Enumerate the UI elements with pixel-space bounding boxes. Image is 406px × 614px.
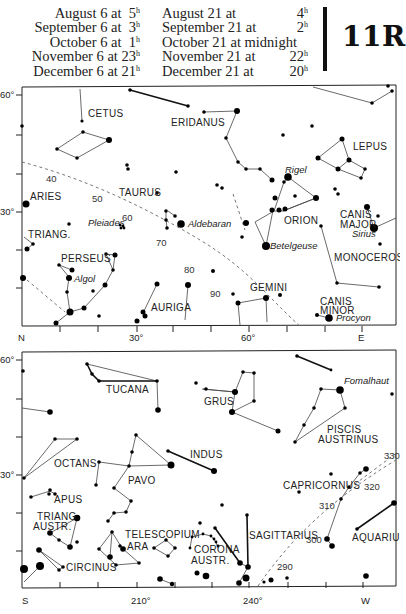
galactic-line: [27, 280, 65, 312]
north-label: N: [18, 332, 25, 343]
pleiades-cluster: Pleiades: [88, 217, 125, 228]
svg-text:ARA: ARA: [127, 541, 148, 552]
star-betelgeuse: Betelgeuse: [270, 240, 318, 251]
svg-text:SAGITTARIUS: SAGITTARIUS: [249, 530, 318, 541]
star-fomalhaut: Fomalhaut: [344, 375, 389, 386]
svg-text:ORION: ORION: [284, 215, 318, 226]
constellation-taurus: TAURUS Pleiades Aldebaran: [88, 187, 231, 230]
constellation-apus: APUS: [29, 488, 82, 505]
svg-text:APUS: APUS: [54, 494, 82, 505]
svg-text:40: 40: [46, 173, 57, 184]
constellation-triangulum-australe: TRIANG AUSTR.: [33, 511, 80, 550]
dec-60-label: 60°: [0, 89, 15, 100]
svg-text:320: 320: [364, 481, 380, 492]
constellation-perseus: PERSEUS Algol: [20, 252, 118, 325]
north-star-map: 60° 30° N 30° 60° E 40 50 60 70 80 90: [0, 84, 400, 343]
constellation-canis-major: CANIS MAJOR Sirius: [333, 187, 396, 246]
east-label: E: [358, 332, 364, 343]
ra-60-label: 60°: [241, 332, 256, 343]
dec-30-label: 30°: [0, 206, 15, 217]
constellation-auriga: AURIGA: [135, 282, 192, 324]
ra-30-label: 30°: [129, 332, 144, 343]
ra-210-label: 210°: [131, 595, 151, 606]
constellation-gemini: GEMINI: [211, 269, 287, 325]
svg-text:AQUARIUS: AQUARIUS: [352, 532, 400, 543]
svg-text:CAPRICORNUS: CAPRICORNUS: [283, 480, 360, 491]
constellation-grus: GRUS: [202, 370, 281, 433]
south-star-map: 60° 30° S 210° 240° W 290 300 310 320 33…: [0, 350, 400, 606]
west-label: W: [361, 595, 370, 606]
constellation-indus: INDUS: [166, 449, 222, 474]
constellation-aquarius: AQUARIUS: [352, 500, 400, 579]
dec-60-label: 60°: [0, 354, 15, 365]
svg-text:70: 70: [156, 237, 167, 248]
svg-text:CETUS: CETUS: [88, 108, 123, 119]
svg-text:310: 310: [319, 500, 335, 511]
svg-text:ERIDANUS: ERIDANUS: [171, 117, 225, 128]
star-rigel: Rigel: [285, 164, 308, 175]
svg-text:80: 80: [184, 264, 195, 275]
svg-text:TUCANA: TUCANA: [106, 384, 149, 395]
svg-text:ARIES: ARIES: [30, 191, 62, 202]
constellation-tucana: TUCANA: [21, 362, 198, 415]
star-sirius: Sirius: [352, 228, 376, 239]
constellation-octans: OCTANS: [22, 437, 97, 480]
constellation-telescopium: TELESCOPIUM: [125, 529, 200, 586]
svg-text:90: 90: [210, 288, 221, 299]
constellation-orion: Rigel ORION Betelgeuse: [215, 164, 319, 251]
svg-text:PERSEUS: PERSEUS: [61, 253, 111, 264]
svg-text:290: 290: [277, 561, 293, 572]
constellation-canis-minor: CANIS MINOR Procyon: [315, 296, 371, 323]
constellation-lepus: LEPUS: [316, 137, 388, 180]
constellation-piscis-austrinus: Fomalhaut PISCIS AUSTRINUS: [293, 375, 394, 445]
constellation-pavo: PAVO: [94, 433, 174, 523]
svg-text:AUSTRINUS: AUSTRINUS: [318, 434, 379, 445]
svg-text:PAVO: PAVO: [128, 475, 156, 486]
svg-text:GEMINI: GEMINI: [250, 282, 287, 293]
south-label: S: [22, 595, 28, 606]
star-procyon: Procyon: [336, 312, 371, 323]
star-aldebaran: Aldebaran: [187, 218, 231, 229]
svg-text:CIRCINUS: CIRCINUS: [66, 562, 117, 573]
svg-text:AUSTR.: AUSTR.: [191, 555, 229, 566]
svg-text:AUSTR.: AUSTR.: [33, 521, 71, 532]
svg-text:50: 50: [92, 193, 103, 204]
dec-30-label: 30°: [0, 469, 15, 480]
svg-text:TAURUS: TAURUS: [119, 187, 161, 198]
ra-240-label: 240°: [243, 595, 263, 606]
svg-text:OCTANS: OCTANS: [54, 458, 97, 469]
svg-text:GRUS: GRUS: [204, 396, 234, 407]
svg-text:330: 330: [384, 450, 400, 461]
svg-text:TELESCOPIUM: TELESCOPIUM: [125, 529, 200, 540]
star-algol: Algol: [73, 273, 96, 284]
svg-text:LEPUS: LEPUS: [353, 141, 387, 152]
svg-text:MONOCEROS: MONOCEROS: [334, 252, 400, 263]
svg-text:INDUS: INDUS: [190, 449, 223, 460]
constellation-cetus: CETUS: [20, 89, 178, 174]
svg-text:TRIANG.: TRIANG.: [28, 229, 71, 240]
svg-text:AURIGA: AURIGA: [151, 302, 191, 313]
constellation-aries-triangulum: ARIES TRIANG.: [23, 191, 71, 252]
